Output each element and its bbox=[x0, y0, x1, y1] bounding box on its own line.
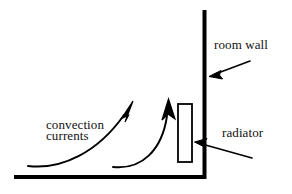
radiator-pointer-line bbox=[200, 144, 252, 159]
room-wall-label: room wall bbox=[214, 38, 268, 51]
convection-arrowhead-right bbox=[162, 99, 175, 120]
room-wall-pointer-head bbox=[209, 71, 223, 80]
radiator-label: radiator bbox=[222, 126, 263, 139]
convection-curve-right bbox=[113, 116, 167, 167]
convection-arrowhead-left bbox=[122, 101, 134, 122]
convection-diagram: room wall radiator convectioncurrents bbox=[0, 0, 292, 194]
room-wall-pointer-arrow bbox=[209, 61, 250, 79]
convection-currents-label: convectioncurrents bbox=[46, 118, 104, 143]
convection-arrow-right bbox=[113, 99, 175, 167]
radiator-rect bbox=[178, 104, 192, 162]
diagram-canvas bbox=[0, 0, 292, 194]
